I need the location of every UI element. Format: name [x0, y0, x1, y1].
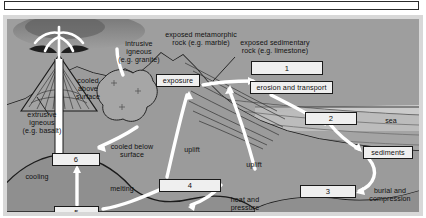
label-extrusive-igneous: extrusive igneous (e.g. basalt) — [18, 111, 66, 136]
label-exposed-sedimentary: exposed sedimentary rock (e.g. limestone… — [229, 39, 321, 55]
erosion-and-transport-box[interactable]: erosion and transport — [250, 81, 333, 94]
label-burial-and-compression: burial and compression — [362, 187, 418, 203]
diagram-canvas: intrusive igneous (e.g. granite) exposed… — [7, 19, 419, 212]
label-sea: sea — [381, 117, 401, 125]
answer-box-3[interactable]: 3 — [300, 185, 356, 198]
label-uplift-right: uplift — [241, 161, 267, 169]
sediments-box[interactable]: sediments — [363, 146, 413, 159]
label-heat-and-pressure: heat and pressure — [223, 196, 267, 212]
answer-box-6[interactable]: 6 — [52, 153, 100, 166]
label-melting: melting — [105, 185, 139, 193]
label-cooled-above-surface: cooled above surface — [69, 77, 107, 102]
answer-box-2[interactable]: 2 — [305, 112, 357, 125]
answer-box-1[interactable]: 1 — [251, 61, 323, 75]
top-toolbar-strip — [4, 1, 419, 10]
exposure-box[interactable]: exposure — [156, 74, 200, 87]
label-cooling: cooling — [20, 173, 54, 181]
answer-box-5[interactable]: 5 — [54, 206, 99, 212]
label-uplift-left: uplift — [179, 146, 205, 154]
rock-cycle-diagram-frame: intrusive igneous (e.g. granite) exposed… — [3, 15, 423, 216]
label-cooled-below-surface: cooled below surface — [103, 143, 161, 159]
answer-box-4[interactable]: 4 — [159, 179, 221, 192]
